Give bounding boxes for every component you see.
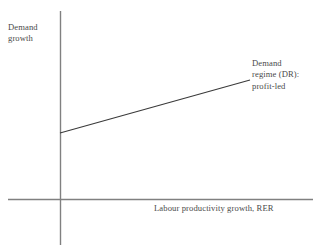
series-annotation-line3: profit-led (252, 81, 299, 92)
demand-regime-line (60, 80, 250, 133)
demand-regime-figure: Demand growth Demand regime (DR): profit… (0, 0, 318, 250)
y-axis-label-line2: growth (8, 33, 38, 44)
y-axis-label-line1: Demand (8, 22, 38, 33)
x-axis-label: Labour productivity growth, RER (154, 203, 274, 214)
series-annotation-line1: Demand (252, 58, 299, 69)
y-axis-label: Demand growth (8, 22, 38, 45)
series-annotation: Demand regime (DR): profit-led (252, 58, 299, 92)
series-annotation-line2: regime (DR): (252, 69, 299, 80)
